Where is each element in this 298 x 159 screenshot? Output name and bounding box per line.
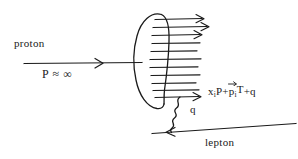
formula-tail-term: +q: [244, 85, 256, 97]
parton-line: [152, 43, 200, 44]
proton-line: [24, 63, 142, 64]
lepton-label: lepton: [205, 137, 234, 148]
formula-middle-term: P+: [216, 85, 229, 97]
parton-line: [150, 59, 201, 60]
proton-label: proton: [14, 38, 45, 49]
photon-momentum-label: q: [190, 104, 196, 115]
parton-bundle-icon: [150, 15, 209, 101]
formula-p-term: p: [229, 85, 235, 97]
proton-blob-ellipse-icon: [134, 14, 169, 109]
parton-line-struck: [155, 97, 199, 98]
physics-diagram: proton P ≈ ∞ q lepton xiP+piT+q: [0, 0, 298, 159]
parton-line: [151, 51, 197, 52]
parton-line: [153, 27, 207, 28]
parton-line: [151, 75, 200, 76]
formula-p-vector: p: [229, 86, 235, 97]
parton-line: [150, 67, 198, 68]
parton-line: [155, 19, 202, 20]
struck-parton-momentum-formula: xiP+piT+q: [208, 84, 256, 99]
formula-t-term: T: [237, 83, 244, 95]
parton-line: [153, 90, 199, 91]
parton-line: [152, 83, 196, 84]
parton-line: [152, 35, 200, 36]
proton-momentum-label: P ≈ ∞: [42, 68, 72, 80]
